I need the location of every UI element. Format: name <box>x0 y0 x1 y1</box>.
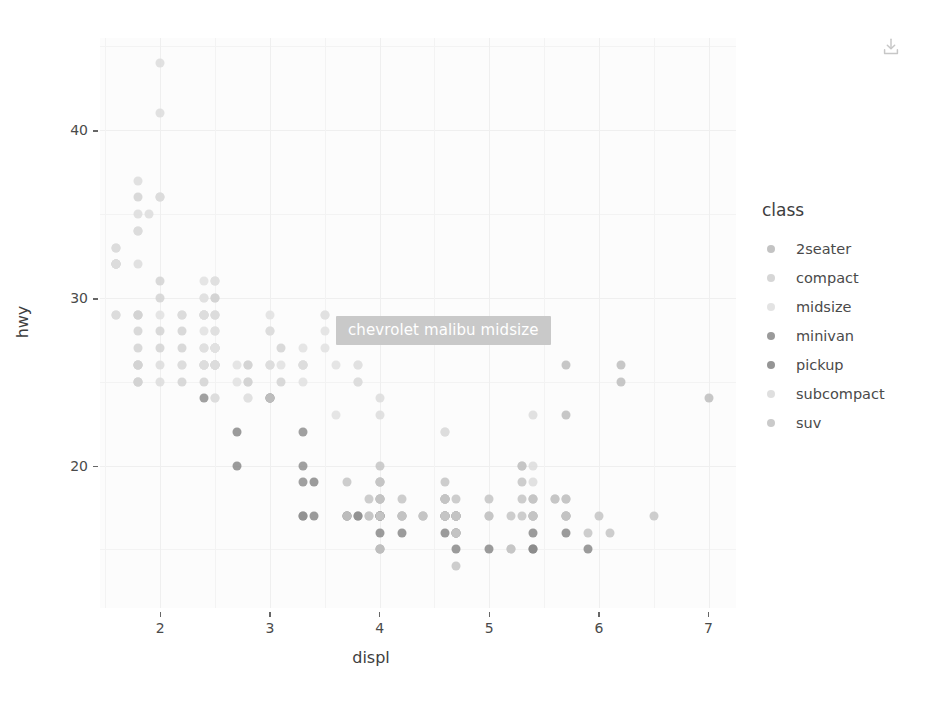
data-point[interactable] <box>233 360 242 369</box>
data-point[interactable] <box>419 511 428 520</box>
data-point[interactable] <box>397 495 406 504</box>
data-point[interactable] <box>178 310 187 319</box>
data-point[interactable] <box>529 545 538 554</box>
data-point[interactable] <box>156 310 165 319</box>
data-point[interactable] <box>375 511 384 520</box>
data-point[interactable] <box>298 461 307 470</box>
data-point[interactable] <box>156 193 165 202</box>
data-point[interactable] <box>551 495 560 504</box>
data-point[interactable] <box>298 344 307 353</box>
data-point[interactable] <box>441 511 450 520</box>
data-point[interactable] <box>529 411 538 420</box>
data-point[interactable] <box>507 545 516 554</box>
data-point[interactable] <box>441 427 450 436</box>
data-point[interactable] <box>134 193 143 202</box>
data-point[interactable] <box>244 394 253 403</box>
data-point[interactable] <box>320 327 329 336</box>
data-point[interactable] <box>178 327 187 336</box>
data-point[interactable] <box>375 528 384 537</box>
data-point[interactable] <box>112 310 121 319</box>
data-point[interactable] <box>178 377 187 386</box>
data-point[interactable] <box>233 377 242 386</box>
data-point[interactable] <box>529 478 538 487</box>
data-point[interactable] <box>200 327 209 336</box>
data-point[interactable] <box>244 360 253 369</box>
data-point[interactable] <box>518 495 527 504</box>
data-point[interactable] <box>375 478 384 487</box>
data-point[interactable] <box>265 360 274 369</box>
legend-item-midsize[interactable]: midsize <box>760 292 930 321</box>
data-point[interactable] <box>616 360 625 369</box>
data-point[interactable] <box>156 59 165 68</box>
data-point[interactable] <box>605 528 614 537</box>
data-point[interactable] <box>156 344 165 353</box>
data-point[interactable] <box>178 360 187 369</box>
legend-item-2seater[interactable]: 2seater <box>760 234 930 263</box>
data-point[interactable] <box>353 511 362 520</box>
data-point[interactable] <box>134 310 143 319</box>
data-point[interactable] <box>583 528 592 537</box>
data-point[interactable] <box>529 528 538 537</box>
data-point[interactable] <box>452 545 461 554</box>
data-point[interactable] <box>156 327 165 336</box>
data-point[interactable] <box>276 377 285 386</box>
data-point[interactable] <box>298 427 307 436</box>
data-point[interactable] <box>298 377 307 386</box>
data-point[interactable] <box>298 360 307 369</box>
data-point[interactable] <box>233 427 242 436</box>
data-point[interactable] <box>211 344 220 353</box>
data-point[interactable] <box>353 377 362 386</box>
data-point[interactable] <box>200 377 209 386</box>
data-point[interactable] <box>485 545 494 554</box>
data-point[interactable] <box>397 528 406 537</box>
data-point[interactable] <box>265 394 274 403</box>
download-icon[interactable] <box>880 36 902 58</box>
data-point[interactable] <box>529 461 538 470</box>
data-point[interactable] <box>375 461 384 470</box>
data-point[interactable] <box>200 293 209 302</box>
data-point[interactable] <box>452 528 461 537</box>
data-point[interactable] <box>375 495 384 504</box>
data-point[interactable] <box>441 528 450 537</box>
data-point[interactable] <box>353 360 362 369</box>
data-point[interactable] <box>397 511 406 520</box>
data-point[interactable] <box>211 327 220 336</box>
data-point[interactable] <box>320 344 329 353</box>
data-point[interactable] <box>342 478 351 487</box>
data-point[interactable] <box>485 511 494 520</box>
data-point[interactable] <box>649 511 658 520</box>
data-point[interactable] <box>156 360 165 369</box>
data-point[interactable] <box>375 545 384 554</box>
data-point[interactable] <box>233 461 242 470</box>
data-point[interactable] <box>309 511 318 520</box>
data-point[interactable] <box>156 377 165 386</box>
data-point[interactable] <box>211 394 220 403</box>
data-point[interactable] <box>265 310 274 319</box>
data-point[interactable] <box>594 511 603 520</box>
data-point[interactable] <box>375 394 384 403</box>
data-point[interactable] <box>562 528 571 537</box>
data-point[interactable] <box>562 511 571 520</box>
legend-item-pickup[interactable]: pickup <box>760 350 930 379</box>
data-point[interactable] <box>200 344 209 353</box>
data-point[interactable] <box>156 277 165 286</box>
data-point[interactable] <box>156 293 165 302</box>
data-point[interactable] <box>375 411 384 420</box>
data-point[interactable] <box>134 344 143 353</box>
data-point[interactable] <box>518 461 527 470</box>
data-point[interactable] <box>452 511 461 520</box>
data-point[interactable] <box>211 310 220 319</box>
data-point[interactable] <box>616 377 625 386</box>
data-point[interactable] <box>364 511 373 520</box>
data-point[interactable] <box>134 260 143 269</box>
data-point[interactable] <box>145 210 154 219</box>
data-point[interactable] <box>452 562 461 571</box>
data-point[interactable] <box>320 310 329 319</box>
data-point[interactable] <box>200 277 209 286</box>
data-point[interactable] <box>331 360 340 369</box>
data-point[interactable] <box>200 360 209 369</box>
data-point[interactable] <box>342 511 351 520</box>
data-point[interactable] <box>704 394 713 403</box>
data-point[interactable] <box>134 210 143 219</box>
data-point[interactable] <box>211 360 220 369</box>
